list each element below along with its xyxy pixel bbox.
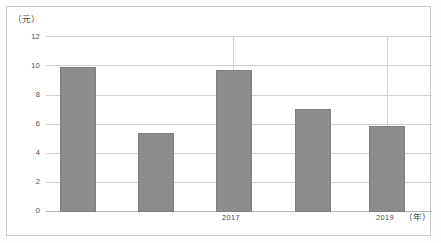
bar-2[interactable] [138, 133, 174, 212]
y-axis-tick-labels: 12 10 8 6 4 2 0 [8, 36, 40, 212]
y-tick-label-2: 2 [10, 178, 40, 186]
bar-chart-figure: （元） 12 10 8 6 4 2 0 2017 2019 （年） [0, 0, 441, 243]
bar-4[interactable] [295, 109, 331, 212]
x-tick-label-2017: 2017 [222, 214, 240, 222]
y-tick-label-4: 4 [10, 149, 40, 157]
plot-area [46, 36, 432, 212]
y-tick-label-12: 12 [10, 33, 40, 41]
gridline-10 [46, 65, 432, 66]
x-tick-label-2019: 2019 [376, 214, 394, 222]
gridline-12 [46, 36, 432, 37]
y-tick-label-10: 10 [10, 62, 40, 70]
y-tick-label-6: 6 [10, 120, 40, 128]
y-tick-label-8: 8 [10, 91, 40, 99]
bar-3-2017[interactable] [216, 70, 252, 212]
x-axis-unit-label: （年） [404, 213, 431, 222]
y-tick-label-0: 0 [10, 207, 40, 215]
y-axis-unit-label: （元） [13, 15, 40, 24]
bar-1[interactable] [60, 67, 96, 212]
bar-5-2019[interactable] [369, 126, 405, 213]
